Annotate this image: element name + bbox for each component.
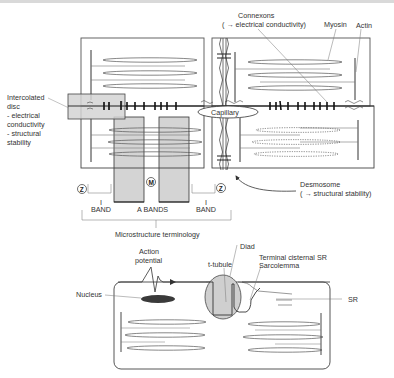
nucleus xyxy=(141,295,175,303)
i-band-left-label: BAND xyxy=(91,205,111,214)
sarcolemma-label: Sarcolemma xyxy=(259,261,299,270)
a-bands-label: A BANDS xyxy=(137,205,168,214)
actin-label: Actin xyxy=(356,21,372,30)
microstructure-caption: Microstructure terminology xyxy=(115,230,200,239)
t-tubule-label: t-tubule xyxy=(208,260,232,269)
i-band-right-label: BAND xyxy=(196,205,216,214)
svg-text:stability: stability xyxy=(7,138,31,147)
svg-text:- structural: - structural xyxy=(7,129,41,138)
desmosome-sublabel: ( → structural stability) xyxy=(300,189,372,198)
connexons-label: Connexons xyxy=(238,11,275,20)
intercalated-disc-label: Intercolated disc - electrical conductiv… xyxy=(7,93,45,147)
svg-text:Z: Z xyxy=(219,185,223,192)
capillary-label: Capillary xyxy=(211,108,239,117)
svg-text:M: M xyxy=(149,179,154,186)
svg-text:conductivity: conductivity xyxy=(7,120,45,129)
nucleus-label: Nucleus xyxy=(76,290,102,299)
sr-label: SR xyxy=(348,295,358,304)
svg-text:Z: Z xyxy=(80,186,84,193)
myosin-label: Myosin xyxy=(324,20,347,29)
svg-text:Intercolated: Intercolated xyxy=(7,93,45,102)
a-band-left xyxy=(114,117,144,202)
a-band-right xyxy=(159,117,189,202)
upper-panel: Capillary Z M Z I BAND A BANDS I BAND xyxy=(7,11,374,239)
svg-text:- electrical: - electrical xyxy=(7,111,40,120)
diad-label: Diad xyxy=(240,242,255,251)
upper-cell-top-right xyxy=(212,38,370,106)
lower-panel: Action potential Nucleus t-tubule Diad T… xyxy=(76,242,358,369)
action-potential-label-2: potential xyxy=(135,256,163,265)
connexons-sublabel: ( → electrical conductivity) xyxy=(222,20,306,29)
action-potential-label: Action xyxy=(139,247,159,256)
cardiac-muscle-diagram: Capillary Z M Z I BAND A BANDS I BAND xyxy=(0,0,394,378)
svg-text:disc: disc xyxy=(7,102,20,111)
desmosome-label: Desmosome xyxy=(300,180,340,189)
